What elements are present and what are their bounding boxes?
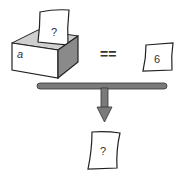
equality-operator: == [100, 46, 116, 62]
compare-card-label: 6 [154, 53, 160, 65]
result-card: ? [88, 132, 120, 169]
box-paper-card: ? [38, 10, 69, 45]
box-content-label: ? [51, 26, 57, 38]
variable-label: a [17, 48, 23, 60]
result-card-label: ? [100, 145, 106, 157]
comparison-diagram: ? a == 6 ? [0, 0, 186, 176]
down-arrow-icon [97, 88, 112, 122]
compare-card: 6 [143, 43, 173, 71]
variable-box: ? a [12, 10, 78, 78]
